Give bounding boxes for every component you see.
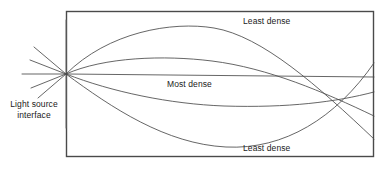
- ray-upper-mid: [66, 58, 374, 116]
- label-light-source-interface: Light source interface: [4, 99, 64, 121]
- label-light-source-line1: Light source: [4, 99, 64, 110]
- incoming-ray-lower: [38, 74, 66, 98]
- label-most-dense: Most dense: [167, 79, 212, 90]
- ray-least-dense-upper: [66, 26, 374, 139]
- incoming-ray-upper: [34, 47, 66, 74]
- ray-lower-mid: [66, 74, 374, 106]
- ray-most-dense-center: [66, 74, 374, 77]
- light-refraction-diagram: Least dense Most dense Least dense Light…: [0, 0, 385, 170]
- label-least-dense-top: Least dense: [243, 16, 290, 27]
- label-light-source-line2: interface: [4, 110, 64, 121]
- incoming-ray-mid-lower: [31, 74, 66, 88]
- incoming-ray-mid-upper: [30, 60, 66, 74]
- medium-boundary-box: [67, 12, 374, 157]
- label-least-dense-bottom: Least dense: [243, 143, 290, 154]
